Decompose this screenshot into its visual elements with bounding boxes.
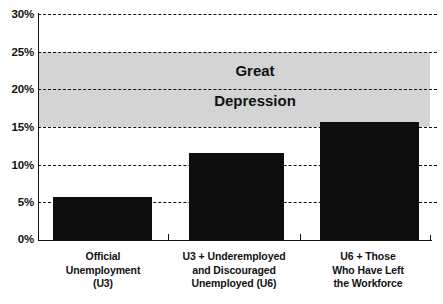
category-label-line: U3 + Underemployed	[167, 250, 301, 264]
category-label-line: and Discouraged	[167, 264, 301, 278]
category-label-line: the Workforce	[303, 277, 433, 291]
y-tick-label-20: 20%	[0, 83, 34, 95]
y-tick-label-10: 10%	[0, 159, 34, 171]
category-label-line: Unemployment	[38, 264, 168, 278]
category-label-official-unemployment: Official Unemployment (U3)	[38, 250, 168, 291]
x-axis-tick-2	[300, 234, 301, 240]
bar-official-unemployment	[53, 197, 152, 240]
x-axis-right-cap	[430, 235, 431, 241]
category-label-line: Unemployed (U6)	[167, 277, 301, 291]
y-tick-label-30: 30%	[0, 8, 34, 20]
unemployment-bar-chart: 30% 25% 20% 15% 10% 5% 0% Great Depressi…	[0, 0, 443, 304]
band-annotation-line-1: Great	[195, 61, 315, 80]
category-label-line: Official	[38, 250, 168, 264]
gridline-30	[38, 14, 437, 15]
y-tick-label-5: 5%	[0, 196, 34, 208]
y-tick-label-0: 0%	[0, 233, 34, 245]
y-tick-label-25: 25%	[0, 46, 34, 58]
category-label-line: Who Have Left	[303, 264, 433, 278]
x-axis-left-cap	[38, 235, 39, 241]
bar-u3-underemployed	[189, 153, 284, 240]
x-axis-line	[38, 240, 432, 241]
category-label-u6-left-workforce: U6 + Those Who Have Left the Workforce	[303, 250, 433, 291]
band-annotation-line-2: Depression	[175, 91, 335, 110]
x-axis-tick-1	[168, 234, 169, 240]
category-label-u3-underemployed: U3 + Underemployed and Discouraged Unemp…	[167, 250, 301, 291]
gridline-25	[38, 52, 437, 53]
category-label-line: U6 + Those	[303, 250, 433, 264]
y-axis-line	[38, 13, 39, 241]
bar-u6-left-workforce	[320, 122, 419, 240]
category-label-line: (U3)	[38, 277, 168, 291]
y-tick-label-15: 15%	[0, 121, 34, 133]
